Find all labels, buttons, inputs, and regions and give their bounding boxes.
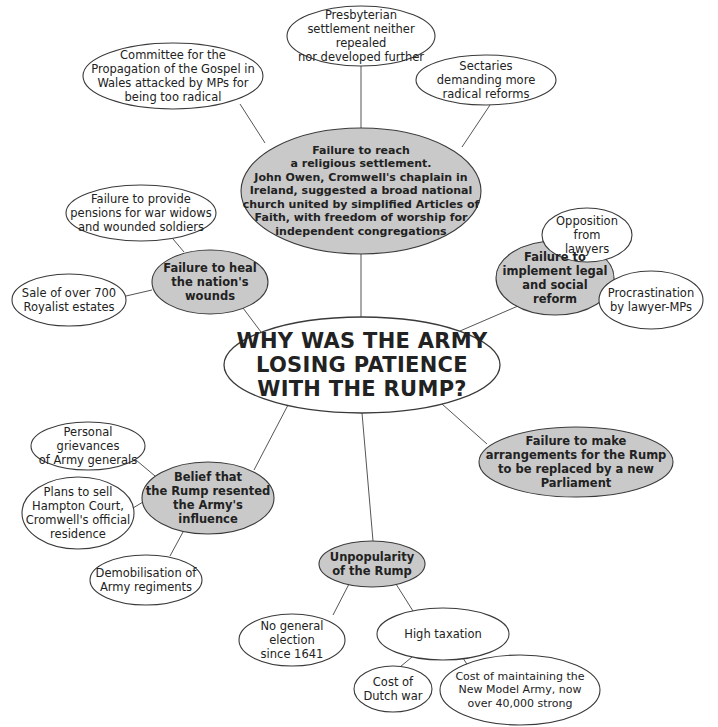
node-ellipse-presbyterian bbox=[287, 6, 435, 66]
node-ellipse-unpopularity bbox=[319, 541, 425, 587]
connector-belief-to-demobilisation bbox=[170, 532, 183, 556]
connector-unpopularity-to-no-election bbox=[333, 584, 349, 615]
node-ellipse-pensions bbox=[66, 185, 216, 241]
connector-central-to-unpopularity bbox=[362, 413, 373, 541]
connector-central-to-legal bbox=[460, 306, 518, 331]
node-ellipse-religious bbox=[241, 128, 481, 254]
node-ellipse-committee bbox=[83, 43, 263, 109]
connector-belief-to-plans bbox=[133, 502, 143, 508]
diagram-canvas bbox=[0, 0, 718, 727]
node-ellipse-dutch-war bbox=[354, 666, 432, 712]
node-shapes bbox=[12, 6, 703, 725]
node-ellipse-sale bbox=[12, 274, 126, 326]
node-ellipse-personal bbox=[31, 422, 145, 470]
node-ellipse-opposition bbox=[542, 208, 632, 262]
node-ellipse-arrangements bbox=[479, 427, 673, 497]
connector-religious-to-sectaries bbox=[462, 105, 490, 147]
node-ellipse-central bbox=[224, 317, 500, 413]
node-ellipse-sectaries bbox=[416, 55, 556, 105]
connector-unpopularity-to-high-taxation bbox=[396, 584, 413, 611]
connector-central-to-belief bbox=[254, 405, 288, 470]
node-ellipse-heal bbox=[152, 250, 268, 314]
connector-heal-to-pensions bbox=[173, 239, 184, 252]
connector-heal-to-sale bbox=[126, 290, 152, 296]
connector-high-taxation-to-dutch-war bbox=[400, 657, 412, 667]
connector-religious-to-committee bbox=[240, 104, 265, 143]
connector-central-to-arrangements bbox=[442, 404, 487, 444]
node-ellipse-procrastination bbox=[599, 271, 703, 329]
node-ellipse-belief bbox=[142, 462, 274, 534]
node-ellipse-model-army bbox=[440, 655, 600, 725]
connector-central-to-heal bbox=[243, 308, 261, 332]
node-ellipse-no-election bbox=[239, 614, 345, 666]
node-ellipse-demobilisation bbox=[90, 555, 202, 605]
node-ellipse-plans bbox=[22, 477, 134, 549]
node-ellipse-high-taxation bbox=[377, 608, 509, 660]
mind-map-diagram: WHY WAS THE ARMY LOSING PATIENCE WITH TH… bbox=[0, 0, 718, 727]
